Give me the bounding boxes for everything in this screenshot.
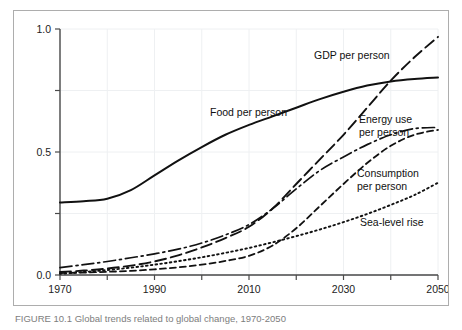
x-axis-tick-label: 2010 (237, 283, 261, 295)
series-label-sea-level-rise: Sea-level rise (360, 216, 424, 228)
series-label-energy-use-per-person: Energy useper person (359, 113, 412, 138)
x-axis-tick-label: 1970 (48, 283, 72, 295)
figure-container: 197019902010203020500.00.51.0 Food per p… (0, 0, 462, 330)
chart-frame: 197019902010203020500.00.51.0 Food per p… (13, 10, 449, 306)
series-label-gdp-per-person: GDP per person (314, 49, 390, 61)
figure-caption: FIGURE 10.1 Global trends related to glo… (15, 313, 455, 324)
y-axis-tick-label: 1.0 (36, 23, 51, 35)
x-axis-tick-label: 2050 (426, 283, 448, 295)
series-label-food-per-person: Food per person (210, 106, 287, 118)
tick-marks (55, 29, 438, 280)
line-chart: 197019902010203020500.00.51.0 Food per p… (14, 11, 448, 305)
y-axis-tick-label: 0.0 (36, 269, 51, 281)
tick-labels: 197019902010203020500.00.51.0 (36, 23, 448, 295)
series-labels: Food per personGDP per personEnergy usep… (210, 49, 424, 228)
y-axis-tick-label: 0.5 (36, 146, 51, 158)
x-axis-tick-label: 1990 (143, 283, 167, 295)
x-axis-tick-label: 2030 (332, 283, 356, 295)
series-label-consumption-per-person: Consumptionper person (357, 167, 419, 192)
